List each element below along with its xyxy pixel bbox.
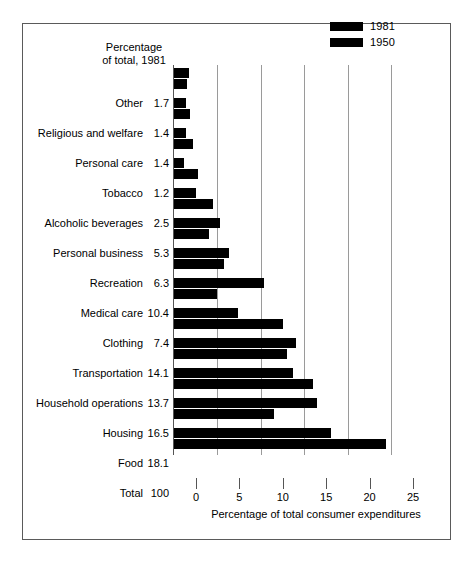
total-row: Total100 xyxy=(28,478,174,508)
category-label: Food xyxy=(118,457,143,469)
value-column-heading: Percentage of total, 1981 xyxy=(78,41,190,67)
category-label: Recreation xyxy=(90,277,143,289)
bar-1981 xyxy=(174,248,229,258)
category-row: Medical care10.4 xyxy=(28,298,174,328)
bar-group xyxy=(174,365,391,395)
total-value: 100 xyxy=(143,487,174,499)
category-label: Alcoholic beverages xyxy=(45,217,143,229)
legend-item-1950: 1950 xyxy=(330,36,422,49)
category-label: Housing xyxy=(103,427,143,439)
bar-1950 xyxy=(174,79,187,89)
total-label: Total xyxy=(120,487,143,499)
x-tick-label-20: 20 xyxy=(355,491,385,503)
category-row: Recreation6.3 xyxy=(28,268,174,298)
category-row: Transportation14.1 xyxy=(28,358,174,388)
gridline-25 xyxy=(391,65,392,455)
legend: 1981 1950 xyxy=(330,20,422,52)
category-label: Clothing xyxy=(103,337,143,349)
x-tick-10 xyxy=(283,478,284,489)
category-value-1981: 7.4 xyxy=(143,337,174,349)
category-label: Transportation xyxy=(72,367,143,379)
bar-group xyxy=(174,125,391,155)
bar-1981 xyxy=(174,398,317,408)
x-tick-label-10: 10 xyxy=(268,491,298,503)
x-tick-label-0: 0 xyxy=(181,491,211,503)
bar-1950 xyxy=(174,109,190,119)
x-tick-0 xyxy=(196,478,197,489)
category-row: Clothing7.4 xyxy=(28,328,174,358)
category-label: Tobacco xyxy=(102,187,143,199)
category-value-1981: 18.1 xyxy=(143,457,174,469)
category-row: Tobacco1.2 xyxy=(28,178,174,208)
bar-1950 xyxy=(174,199,213,209)
value-column-heading-line1: Percentage xyxy=(78,41,190,54)
bar-group xyxy=(174,425,391,455)
x-tick-20 xyxy=(370,478,371,489)
plot-area xyxy=(174,65,391,455)
category-label: Medical care xyxy=(81,307,143,319)
x-tick-label-15: 15 xyxy=(311,491,341,503)
x-tick-5 xyxy=(239,478,240,489)
category-label: Religious and welfare xyxy=(38,127,143,139)
category-value-1981: 1.2 xyxy=(143,187,174,199)
category-value-1981: 14.1 xyxy=(143,367,174,379)
bar-1950 xyxy=(174,349,287,359)
bar-1950 xyxy=(174,139,193,149)
bar-group xyxy=(174,155,391,185)
category-value-1981: 1.7 xyxy=(143,97,174,109)
bar-group xyxy=(174,185,391,215)
legend-item-1981: 1981 xyxy=(330,20,422,33)
category-value-1981: 10.4 xyxy=(143,307,174,319)
category-row: Household operations13.7 xyxy=(28,388,174,418)
bar-1981 xyxy=(174,338,296,348)
legend-label-1950: 1950 xyxy=(370,37,395,48)
bar-1981 xyxy=(174,158,184,168)
category-row: Personal business5.3 xyxy=(28,238,174,268)
category-label: Personal business xyxy=(53,247,143,259)
bar-1950 xyxy=(174,259,224,269)
x-tick-25 xyxy=(413,478,414,489)
category-value-1981: 1.4 xyxy=(143,127,174,139)
category-row: Other1.7 xyxy=(28,88,174,118)
legend-swatch-1981 xyxy=(330,22,363,31)
bar-1981 xyxy=(174,188,196,198)
bar-group xyxy=(174,305,391,335)
bar-group xyxy=(174,395,391,425)
bar-1981 xyxy=(174,368,293,378)
bar-group xyxy=(174,95,391,125)
category-value-1981: 13.7 xyxy=(143,397,174,409)
category-label: Personal care xyxy=(75,157,143,169)
bar-1950 xyxy=(174,409,274,419)
category-value-1981: 6.3 xyxy=(143,277,174,289)
category-row: Housing16.5 xyxy=(28,418,174,448)
bar-1950 xyxy=(174,319,283,329)
category-label: Other xyxy=(115,97,143,109)
category-value-1981: 5.3 xyxy=(143,247,174,259)
x-tick-15 xyxy=(326,478,327,489)
x-axis-title: Percentage of total consumer expenditure… xyxy=(196,508,436,520)
x-tick-label-5: 5 xyxy=(224,491,254,503)
bar-group xyxy=(174,335,391,365)
category-value-1981: 16.5 xyxy=(143,427,174,439)
category-row: Food18.1 xyxy=(28,448,174,478)
category-label-column: Other1.7Religious and welfare1.4Personal… xyxy=(28,88,174,508)
legend-label-1981: 1981 xyxy=(370,21,395,32)
bar-group xyxy=(174,65,391,95)
bar-1981 xyxy=(174,278,264,288)
bar-1950 xyxy=(174,289,217,299)
category-row: Religious and welfare1.4 xyxy=(28,118,174,148)
bar-1981 xyxy=(174,308,238,318)
category-row: Alcoholic beverages2.5 xyxy=(28,208,174,238)
bar-group xyxy=(174,245,391,275)
bar-1981 xyxy=(174,68,189,78)
category-value-1981: 1.4 xyxy=(143,157,174,169)
bar-1981 xyxy=(174,98,186,108)
bar-1950 xyxy=(174,439,386,449)
category-row: Personal care1.4 xyxy=(28,148,174,178)
legend-swatch-1950 xyxy=(330,38,363,47)
x-tick-label-25: 25 xyxy=(398,491,428,503)
category-label: Household operations xyxy=(36,397,143,409)
bar-1981 xyxy=(174,128,186,138)
bar-group xyxy=(174,215,391,245)
bar-1950 xyxy=(174,229,209,239)
